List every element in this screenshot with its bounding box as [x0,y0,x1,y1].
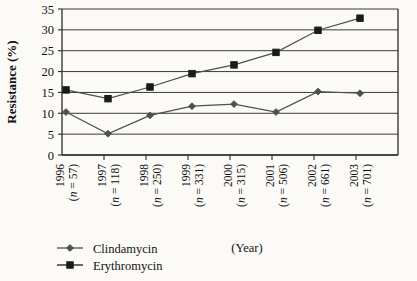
x-axis-year-label: 2000 [222,164,234,187]
y-axis-tick-label: 30 [42,23,55,37]
x-axis-tick-label: 2002(n = 661) [306,164,332,207]
x-axis-year-label: 2001 [264,164,276,187]
x-axis-tick-label: 1998(n = 250) [138,164,164,207]
x-axis-tick-label: 2003(n = 701) [348,164,374,207]
x-axis-tick-label: 2000(n = 315) [222,164,248,207]
x-axis-title: (Year) [231,241,262,255]
y-axis-tick-label: 35 [42,3,55,17]
y-axis-title-text: Resistance (%) [4,40,19,123]
legend-item-erythromycin[interactable]: Erythromycin [57,259,163,273]
x-axis-year-label: 1998 [138,164,150,187]
data-point-marker [63,109,70,116]
y-axis-tick-label: 20 [42,65,55,79]
data-point-marker [273,49,279,55]
y-axis-tick-label: 10 [42,107,55,121]
legend-marker-icon [67,245,74,252]
x-axis-year-label: 1997 [96,164,108,187]
x-axis-year-label: 1999 [180,164,192,187]
x-axis-sample-size-label: (n = 57) [67,164,80,201]
y-axis-tick-label: 0 [48,149,54,163]
chart-figure: 051015202530351996(n = 57)1997(n = 118)1… [0,0,417,281]
legend-item-label: Clindamycin [93,242,158,256]
y-axis-title: Resistance (%) [4,40,19,123]
x-axis-tick-label: 1999(n = 331) [180,164,206,207]
data-point-marker [315,27,321,33]
x-axis-tick-label: 1996(n = 57) [54,164,80,201]
legend-item-clindamycin[interactable]: Clindamycin [57,242,158,256]
data-point-marker [357,90,364,97]
x-axis-year-label: 2003 [348,164,360,187]
data-point-marker [63,87,69,93]
data-point-marker [273,109,280,116]
data-point-marker [231,101,238,108]
data-point-marker [357,15,363,21]
data-point-marker [189,103,196,110]
data-point-marker [105,130,112,137]
x-axis-year-label: 1996 [54,164,66,187]
x-axis-sample-size-label: (n = 661) [319,164,332,207]
x-axis-sample-size-label: (n = 250) [151,164,164,207]
x-axis-tick-label: 2001(n = 506) [264,164,290,207]
data-point-marker [315,88,322,95]
y-axis-tick-label: 25 [42,44,55,58]
chart-legend: ClindamycinErythromycin [57,242,163,273]
x-axis-sample-size-label: (n = 701) [361,164,374,207]
data-point-marker [147,84,153,90]
data-point-marker [189,70,195,76]
x-axis-sample-size-label: (n = 315) [235,164,248,207]
x-axis-year-label: 2002 [306,164,318,187]
resistance-trend-line-chart: 051015202530351996(n = 57)1997(n = 118)1… [0,0,417,281]
data-point-marker [105,95,111,101]
x-axis-sample-size-label: (n = 118) [109,164,122,207]
y-axis-tick-label: 5 [48,128,54,142]
y-axis-tick-label: 15 [42,86,55,100]
legend-item-label: Erythromycin [93,259,163,273]
data-point-marker [231,62,237,68]
legend-marker-icon [67,262,73,268]
x-axis-sample-size-label: (n = 506) [277,164,290,207]
x-axis-tick-label: 1997(n = 118) [96,164,122,207]
x-axis-sample-size-label: (n = 331) [193,164,206,207]
